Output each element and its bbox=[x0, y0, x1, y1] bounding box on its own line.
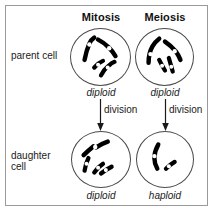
cell-mitosis-daughter bbox=[71, 131, 131, 188]
row-label-daughter-cell: daughter cell bbox=[11, 150, 69, 172]
chromosome-group bbox=[85, 38, 116, 76]
chromosome-group bbox=[148, 39, 180, 72]
cell-meiosis-daughter bbox=[136, 131, 194, 188]
column-header-mitosis: Mitosis bbox=[70, 11, 132, 23]
ploidy-label-meiosis-daughter: haploid bbox=[134, 190, 196, 201]
ploidy-label-meiosis-parent: diploid bbox=[134, 87, 196, 98]
row-label-parent-cell: parent cell bbox=[11, 50, 69, 61]
division-label-meiosis: division bbox=[169, 104, 202, 115]
ploidy-label-mitosis-parent: diploid bbox=[70, 87, 132, 98]
ploidy-label-mitosis-daughter: diploid bbox=[70, 190, 132, 201]
column-header-meiosis: Meiosis bbox=[134, 11, 196, 23]
cell-meiosis-parent bbox=[135, 28, 194, 86]
division-label-mitosis: division bbox=[104, 104, 137, 115]
chromosome-group bbox=[152, 145, 174, 169]
chromosome-group bbox=[84, 142, 112, 174]
cell-mitosis-parent bbox=[70, 28, 131, 86]
mitosis-meiosis-diagram: Mitosis Meiosis parent cell daughter cel… bbox=[0, 0, 214, 212]
